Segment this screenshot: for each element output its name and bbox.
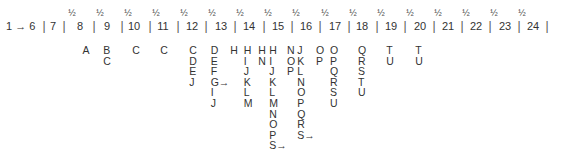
letter-item: C — [132, 45, 140, 56]
half-mark: ½ — [377, 8, 385, 18]
timeline-separator: | — [42, 19, 45, 33]
letter-column: C — [160, 45, 168, 56]
half-mark: ½ — [434, 8, 442, 18]
timeline-separator: | — [318, 19, 321, 33]
timeline-number: 15 — [272, 20, 284, 32]
half-mark: ½ — [406, 8, 414, 18]
timeline-separator: | — [176, 19, 179, 33]
half-mark: ½ — [208, 8, 216, 18]
letter-item: U — [415, 56, 423, 67]
letter-item: H — [230, 45, 238, 56]
timeline-separator: | — [262, 19, 265, 33]
half-mark: ½ — [180, 8, 188, 18]
timeline-number: 9 — [104, 20, 110, 32]
letter-item: B — [103, 45, 111, 56]
half-mark: ½ — [321, 8, 329, 18]
half-mark: ½ — [124, 8, 132, 18]
timeline-number: 14 — [243, 20, 255, 32]
letter-item: D — [211, 45, 230, 56]
letter-item: H — [258, 45, 266, 56]
timeline-separator: | — [92, 19, 95, 33]
timeline-separator: | — [290, 19, 293, 33]
letter-item: S→ — [297, 130, 315, 141]
letter-column: NOP — [287, 45, 295, 77]
letter-item: J — [189, 77, 197, 88]
half-mark: ½ — [292, 8, 300, 18]
letter-item: H — [269, 45, 287, 56]
half-mark: ½ — [236, 8, 244, 18]
timeline-number: 12 — [186, 20, 198, 32]
timeline-separator: | — [204, 19, 207, 33]
letter-column: CDEJ — [189, 45, 197, 87]
letter-column: TU — [415, 45, 423, 66]
letter-item: U — [386, 56, 394, 67]
letter-column: HIJKLMNOPS→ — [269, 45, 287, 151]
letter-item: T — [386, 45, 394, 56]
letter-item: P — [316, 56, 324, 67]
letter-item: C — [189, 45, 197, 56]
letter-item: Q — [358, 45, 366, 56]
half-mark: ½ — [152, 8, 160, 18]
letter-item: N — [258, 56, 266, 67]
letter-column: OP — [316, 45, 324, 66]
letter-column: BC — [103, 45, 111, 66]
letter-column: JKLNOPQRS→ — [297, 45, 315, 140]
letter-item: J — [297, 45, 315, 56]
letter-column: C — [132, 45, 140, 56]
half-mark: ½ — [490, 8, 498, 18]
half-mark: ½ — [96, 8, 104, 18]
letter-item: P — [287, 66, 295, 77]
letter-item: C — [160, 45, 168, 56]
timeline-separator: | — [545, 19, 548, 33]
half-mark: ½ — [68, 8, 76, 18]
timeline-separator: | — [62, 19, 65, 33]
timeline-number: 22 — [470, 20, 482, 32]
timeline-number: 7 — [50, 20, 56, 32]
timeline-number: 16 — [300, 20, 312, 32]
letter-column: H — [230, 45, 238, 56]
timeline-number: 17 — [329, 20, 341, 32]
half-mark: ½ — [349, 8, 357, 18]
timeline-number: 11 — [157, 20, 168, 32]
timeline-separator: | — [148, 19, 151, 33]
timeline-separator: | — [432, 19, 435, 33]
letter-column: HN — [258, 45, 266, 66]
letter-item: O — [330, 45, 338, 56]
timeline-separator: | — [517, 19, 520, 33]
letter-item: J — [211, 98, 230, 109]
timeline-number: 23 — [499, 20, 511, 32]
letter-column: DEFG→IJ — [211, 45, 230, 109]
timeline-number: 13 — [215, 20, 227, 32]
timeline-separator: | — [460, 19, 463, 33]
timeline-number: 10 — [128, 20, 140, 32]
range-start-label: 1 → 6 — [6, 20, 35, 32]
timeline-number: 19 — [385, 20, 397, 32]
letter-column: QRSTU — [358, 45, 366, 98]
timeline-number: 24 — [527, 20, 539, 32]
letter-item: C — [103, 56, 111, 67]
letter-column: OPQRSU — [330, 45, 338, 109]
letter-column: TU — [386, 45, 394, 66]
letter-item: A — [82, 45, 89, 56]
timeline-number: 18 — [356, 20, 368, 32]
letter-item: U — [358, 87, 366, 98]
half-mark: ½ — [462, 8, 470, 18]
letter-item: U — [330, 98, 338, 109]
letter-item: H — [244, 45, 253, 56]
letter-item: T — [415, 45, 423, 56]
timeline-number: 20 — [414, 20, 426, 32]
letter-item: O — [316, 45, 324, 56]
timeline-separator: | — [347, 19, 350, 33]
timeline-separator: | — [120, 19, 123, 33]
letter-column: A — [82, 45, 89, 56]
timeline-number: 8 — [77, 20, 83, 32]
letter-item: M — [269, 98, 287, 109]
timeline-number: 21 — [442, 20, 454, 32]
timeline-separator: | — [403, 19, 406, 33]
letter-column: HIJKLM — [244, 45, 253, 109]
timeline-separator: | — [488, 19, 491, 33]
half-mark: ½ — [518, 8, 526, 18]
half-mark: ½ — [264, 8, 272, 18]
letter-item: P — [297, 98, 315, 109]
timeline-separator: | — [375, 19, 378, 33]
